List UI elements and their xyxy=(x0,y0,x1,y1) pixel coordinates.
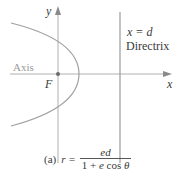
y-axis-arrow-icon xyxy=(55,6,61,15)
directrix-label: Directrix xyxy=(126,40,169,52)
caption: (a) r = ed 1 + e cos θ xyxy=(44,146,131,172)
polar-equation-fraction: ed 1 + e cos θ xyxy=(80,146,132,172)
fraction-denominator: 1 + e cos θ xyxy=(80,159,132,172)
axis-label: Axis xyxy=(13,62,34,73)
denominator-cos: cos xyxy=(104,159,124,171)
focus-label: F xyxy=(45,78,52,90)
caption-tag: (a) xyxy=(44,153,56,165)
denominator-prefix: 1 + xyxy=(82,159,99,171)
denominator-theta: θ xyxy=(124,159,129,171)
y-axis-label: y xyxy=(46,5,51,17)
directrix-equation: x = d xyxy=(127,26,152,38)
caption-lhs: r = xyxy=(61,153,75,165)
x-axis-label: x xyxy=(167,78,172,90)
fraction-numerator: ed xyxy=(98,146,112,158)
focus-point xyxy=(56,72,60,76)
